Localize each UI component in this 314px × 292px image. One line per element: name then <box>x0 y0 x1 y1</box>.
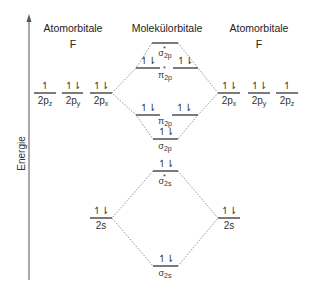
left-2s-correlation <box>112 171 153 266</box>
sigma-2p-label: σ2p <box>152 141 178 152</box>
pi-star-2p-electrons-a: ↿⇂ <box>136 55 160 66</box>
axis-arrow-icon <box>27 14 32 22</box>
sigma-star-2s-electrons: ↿⇂ <box>153 158 178 169</box>
pi-2p-electrons-a: ↿⇂ <box>136 102 160 113</box>
right-2py-electrons: ↿⇂ <box>248 80 270 91</box>
sigma-2s-electrons: ↿⇂ <box>153 253 178 264</box>
sigma-2s-label: σ2s <box>152 268 178 279</box>
left-2py-label: 2py <box>62 95 84 107</box>
right-2pz-electrons: ↿ <box>276 80 298 91</box>
left-2pz-electrons: ↿ <box>34 80 56 91</box>
right-2py-label: 2py <box>248 95 270 107</box>
right-atom-title: Atomorbitale <box>224 22 294 34</box>
right-2px-label: 2px <box>218 95 240 107</box>
energy-axis-label: Energie <box>16 129 27 179</box>
right-2px-electrons: ↿⇂ <box>218 80 240 91</box>
left-2py-electrons: ↿⇂ <box>62 80 84 91</box>
left-2px-label: 2px <box>90 95 112 107</box>
left-2s-electrons: ↿⇂ <box>90 205 112 216</box>
right-2pz-label: 2pz <box>276 95 298 107</box>
right-2s-electrons: ↿⇂ <box>218 205 240 216</box>
right-2s-label: 2s <box>218 220 240 231</box>
left-atom-element: F <box>38 38 108 50</box>
sigma-star-2s-label: σ2s <box>152 176 178 187</box>
right-atom-element: F <box>224 38 294 50</box>
mo-title: Molekülorbitale <box>125 22 209 34</box>
sigma-2p-electrons: ↿⇂ <box>153 126 178 137</box>
left-atom-title: Atomorbitale <box>38 22 108 34</box>
pi-star-2p-label: π2p <box>152 70 178 81</box>
left-2px-electrons: ↿⇂ <box>90 80 112 91</box>
pi-2p-electrons-b: ↿⇂ <box>172 102 196 113</box>
right-2s-correlation <box>178 171 218 266</box>
left-2pz-label: 2pz <box>34 95 56 107</box>
left-2s-label: 2s <box>90 220 112 231</box>
pi-star-2p-electrons-b: ↿⇂ <box>173 55 197 66</box>
